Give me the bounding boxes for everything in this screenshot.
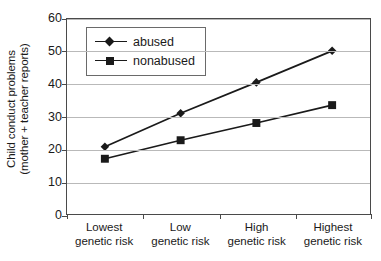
gridline xyxy=(67,117,370,118)
y-tick-label: 10 xyxy=(36,176,62,188)
y-tick-mark xyxy=(62,84,67,85)
gridline xyxy=(67,19,370,20)
x-tick-mark xyxy=(143,214,144,219)
legend-item-nonabused: nonabused xyxy=(95,51,195,70)
y-axis-tick-labels: 0102030405060 xyxy=(36,0,62,261)
data-point-nonabused-0 xyxy=(101,155,109,163)
x-tick-mark xyxy=(296,214,297,219)
chart-figure: Child conduct problems (mother + teacher… xyxy=(0,0,381,261)
y-tick-mark xyxy=(62,150,67,151)
y-tick-label: 20 xyxy=(36,143,62,155)
square-marker-icon xyxy=(95,54,127,68)
data-point-nonabused-1 xyxy=(177,136,185,144)
y-tick-label: 40 xyxy=(36,78,62,90)
y-tick-mark xyxy=(62,117,67,118)
legend-item-abused: abused xyxy=(95,32,195,51)
data-point-nonabused-2 xyxy=(252,119,260,127)
y-tick-label: 60 xyxy=(36,12,62,24)
y-axis-title-line-2: (mother + teacher reports) xyxy=(18,43,32,174)
legend-label-abused: abused xyxy=(133,35,174,49)
y-tick-mark xyxy=(62,51,67,52)
legend-label-nonabused: nonabused xyxy=(133,54,195,68)
gridline xyxy=(67,150,370,151)
data-point-abused-2 xyxy=(252,78,261,87)
y-axis-title-line-1: Child conduct problems xyxy=(5,50,19,168)
y-tick-label: 0 xyxy=(36,209,62,221)
x-tick-mark xyxy=(220,214,221,219)
y-tick-mark xyxy=(62,19,67,20)
x-tick-mark xyxy=(67,214,68,219)
x-category-label-1: Lowgenetic risk xyxy=(142,220,218,258)
gridline xyxy=(67,84,370,85)
y-tick-label: 50 xyxy=(36,45,62,57)
y-axis-title: Child conduct problems (mother + teacher… xyxy=(0,0,36,218)
x-category-label-0: Lowestgenetic risk xyxy=(66,220,142,258)
data-point-nonabused-3 xyxy=(328,101,336,109)
x-category-label-2: Highgenetic risk xyxy=(219,220,295,258)
gridline xyxy=(67,183,370,184)
plot-area: abused nonabused xyxy=(66,18,371,215)
gridline xyxy=(67,51,370,52)
x-category-label-3: Highestgenetic risk xyxy=(295,220,371,258)
y-tick-mark xyxy=(62,183,67,184)
x-axis-category-labels: Lowestgenetic riskLowgenetic riskHighgen… xyxy=(66,220,371,258)
x-tick-mark xyxy=(371,214,372,219)
diamond-marker-icon xyxy=(95,35,127,49)
y-tick-label: 30 xyxy=(36,111,62,123)
